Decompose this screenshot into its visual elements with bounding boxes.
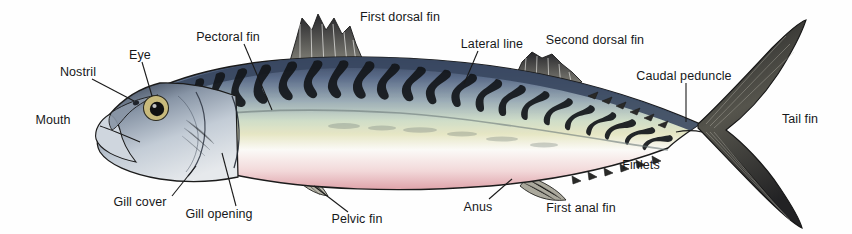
label-first-anal-fin: First anal fin [546, 202, 615, 215]
label-lateral-line: Lateral line [461, 38, 523, 51]
label-pectoral-fin: Pectoral fin [196, 31, 260, 44]
label-second-dorsal-fin: Second dorsal fin [546, 34, 644, 47]
label-eye: Eye [129, 49, 151, 62]
label-gill-opening: Gill opening [185, 208, 252, 221]
label-tail-fin: Tail fin [782, 113, 818, 126]
label-anus: Anus [464, 201, 493, 214]
label-nostril: Nostril [60, 66, 96, 79]
label-gill-cover: Gill cover [113, 196, 166, 209]
fish-anatomy-diagram: Nostril Eye Mouth Pectoral fin First dor… [0, 0, 852, 234]
label-finlets: Finlets [622, 159, 660, 172]
label-mouth: Mouth [35, 114, 70, 127]
label-first-dorsal-fin: First dorsal fin [360, 11, 440, 24]
label-layer: Nostril Eye Mouth Pectoral fin First dor… [0, 0, 852, 234]
label-pelvic-fin: Pelvic fin [331, 213, 382, 226]
label-caudal-peduncle: Caudal peduncle [636, 70, 731, 83]
